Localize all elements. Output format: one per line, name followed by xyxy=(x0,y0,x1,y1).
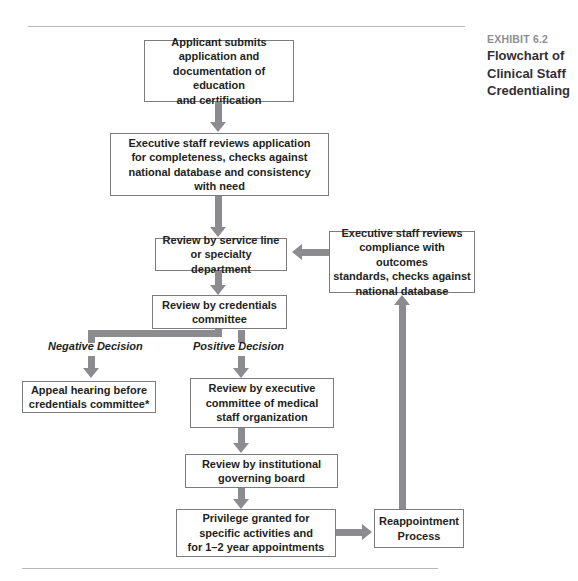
top-divider-rule xyxy=(28,26,465,27)
node-applicant-submits-text: Applicant submits application and docume… xyxy=(145,35,293,108)
exhibit-number-label: EXHIBIT 6.2 xyxy=(487,32,578,47)
node-privilege-granted-text: Privilege granted for specific activitie… xyxy=(185,511,328,555)
node-executive-staff-reviews-application: Executive staff reviews application for … xyxy=(110,133,329,196)
node-executive-staff-reviews-compliance: Executive staff reviews compliance with … xyxy=(329,231,475,293)
arrowhead-applicant-to-executive-review xyxy=(210,122,226,132)
exhibit-title-line-1: Flowchart of xyxy=(487,47,578,65)
node-executive-staff-reviews-compliance-text: Executive staff reviews compliance with … xyxy=(330,226,474,299)
connector-executive-review-to-service-line xyxy=(215,196,222,229)
node-review-by-service-line: Review by service line or specialty depa… xyxy=(155,238,287,271)
arrowhead-reappointment-to-compliance xyxy=(394,295,410,305)
connector-applicant-to-executive-review xyxy=(215,102,222,124)
arrowhead-governing-board-to-privilege xyxy=(233,499,249,509)
connector-compliance-to-service-line xyxy=(302,249,329,256)
node-reappointment-process: Reappointment Process xyxy=(374,509,464,548)
bottom-divider-rule xyxy=(22,568,438,569)
arrowhead-positive-to-executive-committee xyxy=(233,368,249,378)
node-review-by-executive-committee: Review by executive committee of medical… xyxy=(190,378,334,428)
exhibit-title-line-2: Clinical Staff xyxy=(487,65,578,83)
node-review-by-executive-committee-text: Review by executive committee of medical… xyxy=(203,381,321,425)
exhibit-canvas: EXHIBIT 6.2 Flowchart of Clinical Staff … xyxy=(0,0,578,581)
arrowhead-privilege-to-reappointment xyxy=(362,524,372,540)
node-applicant-submits: Applicant submits application and docume… xyxy=(144,40,294,102)
node-review-by-credentials-committee-text: Review by credentials committee xyxy=(159,298,280,327)
connector-credentials-split-horizontal xyxy=(88,330,222,337)
arrowhead-negative-to-appeal xyxy=(83,368,99,378)
node-reappointment-process-text: Reappointment Process xyxy=(376,514,462,543)
node-review-by-governing-board-text: Review by institutional governing board xyxy=(199,457,324,486)
arrowhead-service-line-to-credentials xyxy=(210,285,226,295)
node-privilege-granted: Privilege granted for specific activitie… xyxy=(176,509,336,557)
node-review-by-governing-board: Review by institutional governing board xyxy=(185,454,338,488)
label-negative-decision: Negative Decision xyxy=(48,340,143,352)
node-appeal-hearing: Appeal hearing before credentials commit… xyxy=(22,381,156,413)
node-review-by-service-line-text: Review by service line or specialty depa… xyxy=(156,233,286,277)
arrowhead-compliance-to-service-line xyxy=(292,244,302,260)
node-review-by-credentials-committee: Review by credentials committee xyxy=(152,295,287,329)
exhibit-title-line-3: Credentialing xyxy=(487,82,578,100)
label-positive-decision: Positive Decision xyxy=(193,340,284,352)
node-appeal-hearing-text: Appeal hearing before credentials commit… xyxy=(26,383,152,412)
arrowhead-executive-committee-to-governing-board xyxy=(233,443,249,453)
node-executive-staff-reviews-application-text: Executive staff reviews application for … xyxy=(125,136,313,194)
connector-reappointment-to-compliance xyxy=(399,305,406,509)
connector-privilege-to-reappointment xyxy=(336,529,364,536)
exhibit-caption: EXHIBIT 6.2 Flowchart of Clinical Staff … xyxy=(487,32,578,100)
